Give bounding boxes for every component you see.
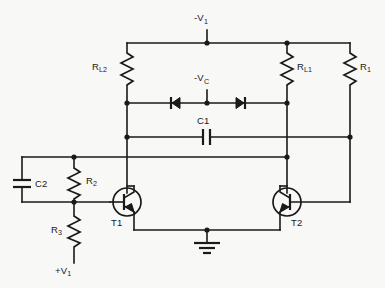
diode-d1 [171,97,180,109]
resistor-ri-group [344,43,356,137]
transistor-t2-group [273,186,350,230]
label-supply-v1-sub: 1 [204,17,208,26]
label-positive-v1-sub: 1 [67,269,71,278]
resistor-r3-zigzag [68,216,80,247]
ground-rail-group [134,227,280,253]
label-r2-sub: 2 [93,179,97,188]
resistor-rl2-zigzag [121,53,133,85]
resistor-r2-zigzag [68,168,80,199]
label-supply-v1-text: -V [194,12,204,23]
label-rl1-sub: L1 [304,65,312,74]
resistor-r2-group [68,157,80,205]
label-rl1-text: R [297,61,304,72]
label-resistor-r3: R3 [51,225,62,235]
schematic-canvas [0,0,385,288]
label-ri-sub: 1 [367,65,371,74]
label-rl2-sub: L2 [99,65,107,74]
resistor-rl2-group [121,43,133,103]
label-resistor-r2: R2 [86,176,97,186]
label-r3-text: R [51,224,58,235]
node-dot-t2-base-rail [284,154,289,159]
label-resistor-rl2: RL2 [92,62,107,72]
node-dot-supply-v1 [204,40,209,45]
label-capacitor-c2: C2 [35,179,48,189]
label-clamp-vc-sub: C [204,77,209,86]
label-clamp-vc-text: -V [194,72,204,83]
node-dot-clamp-vc [204,100,209,105]
capacitor-c1-rail-group [124,103,352,193]
base-cross-rail-group [22,154,290,159]
transistor-t1-emitter-arrow [126,204,135,212]
resistor-ri-zigzag [344,53,356,85]
label-r2-text: R [86,175,93,186]
diode-clamp-rail-group [124,90,289,109]
label-transistor-t1: T1 [111,218,123,228]
circuit-schematic-figure: -V1 -VC RL2 RL1 R1 C1 C2 R2 R3 +V1 T1 T2 [0,0,385,288]
label-capacitor-c1: C1 [197,116,210,126]
label-rl2-text: R [92,61,99,72]
label-supply-negative-v1: -V1 [194,14,208,24]
diode-d1-triangle [172,98,180,109]
label-supply-positive-v1: +V1 [55,266,71,276]
top-supply-rail-group [127,30,350,46]
diode-d2-triangle [236,98,244,109]
label-transistor-t2: T2 [291,218,303,228]
label-positive-v1-text: +V [55,265,67,276]
transistor-t2-emitter-arrow [280,204,289,212]
resistor-rl1-group [281,43,293,103]
resistor-rl1-zigzag [281,53,293,85]
label-r3-sub: 3 [58,228,62,237]
diode-d2 [236,97,245,109]
resistor-r3-group [68,202,80,263]
label-clamp-negative-vc: -VC [194,74,209,84]
label-resistor-ri: R1 [360,62,371,72]
label-ri-text: R [360,61,367,72]
label-resistor-rl1: RL1 [297,62,312,72]
